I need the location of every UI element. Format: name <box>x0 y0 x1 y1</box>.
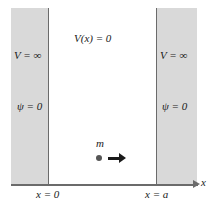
x-axis-line <box>11 184 198 186</box>
left-wall-potential-label: V = ∞ <box>14 50 41 61</box>
x-tick-label-width: x = a <box>145 189 168 200</box>
right-wall-wavefunction-label: ψ = 0 <box>162 101 187 112</box>
right-potential-wall <box>156 8 197 185</box>
particle-mass-label: m <box>96 138 104 149</box>
infinite-square-well-diagram: V(x) = 0 V = ∞ ψ = 0 V = ∞ ψ = 0 m x x =… <box>0 0 211 210</box>
x-axis-label: x <box>201 177 206 188</box>
left-wall-wavefunction-label: ψ = 0 <box>17 101 42 112</box>
velocity-right-arrow-head-icon <box>119 153 126 163</box>
interior-potential-label: V(x) = 0 <box>74 33 111 44</box>
right-wall-potential-label: V = ∞ <box>160 50 187 61</box>
particle-dot <box>96 155 102 161</box>
x-axis-right-arrow-icon <box>193 180 200 188</box>
left-potential-wall <box>11 8 49 185</box>
x-tick-label-origin: x = 0 <box>36 189 59 200</box>
